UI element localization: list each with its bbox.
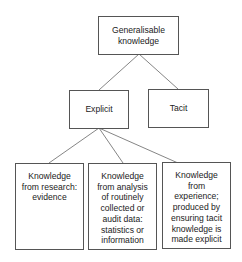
node-explicit: Explicit (69, 90, 129, 129)
connector-root-explicit (99, 54, 139, 90)
node-knowledge-from-research: Knowledge from research: evidence (15, 163, 84, 250)
node-generalisable-knowledge: Generalisable knowledge (98, 16, 179, 55)
node-label-line: made explicit (171, 234, 222, 245)
node-label-line: produced by (171, 202, 222, 213)
node-knowledge-from-experience: Knowledge from experience; produced by e… (162, 162, 231, 249)
connector-explicit-research (49, 128, 99, 163)
node-label-line: from research: (22, 182, 77, 193)
node-label-line: experience; (171, 191, 222, 202)
node-label-line: Knowledge (22, 171, 77, 182)
node-label-line: evidence (22, 192, 77, 203)
node-label: Tacit (170, 103, 188, 114)
node-label-line: collected or (97, 203, 148, 214)
node-knowledge-from-analysis: Knowledge from analysis of routinely col… (88, 163, 157, 250)
node-label: Explicit (85, 104, 112, 115)
node-label-line: audit data: (97, 214, 148, 225)
node-label-line: of routinely (97, 192, 148, 203)
node-label-line: ensuring tacit (171, 213, 222, 224)
node-label-line: information (97, 235, 148, 246)
node-label-line: knowledge is (171, 224, 222, 235)
node-label-line: knowledge (112, 36, 165, 47)
node-tacit: Tacit (148, 89, 209, 128)
node-label-line: Knowledge (97, 171, 148, 182)
node-label-line: from (171, 181, 222, 192)
node-label-line: statistics or (97, 225, 148, 236)
node-label-line: Generalisable (112, 25, 165, 36)
node-label-line: from analysis (97, 182, 148, 193)
connector-root-tacit (139, 54, 178, 89)
node-label-line: Knowledge (171, 170, 222, 181)
